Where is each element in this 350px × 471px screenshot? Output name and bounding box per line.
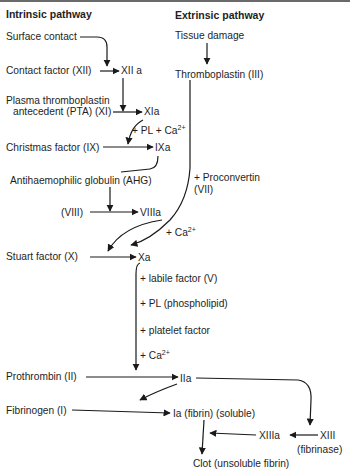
xia-to-ixa-arrow xyxy=(128,120,143,144)
xiiia-arrow xyxy=(210,433,256,435)
ia-to-clot-arrow xyxy=(202,420,204,454)
fibrinogen-arrow xyxy=(72,410,170,413)
surface-contact-arrow xyxy=(80,37,107,66)
iia-to-ia-arrow xyxy=(140,384,177,400)
iia-to-xiii-arrow xyxy=(196,378,311,425)
xa-down-arrow xyxy=(136,263,140,370)
pathway-arrows xyxy=(0,0,350,471)
ixa-to-ahg-line xyxy=(121,156,158,172)
viiia-to-xa-arrow xyxy=(108,220,162,251)
